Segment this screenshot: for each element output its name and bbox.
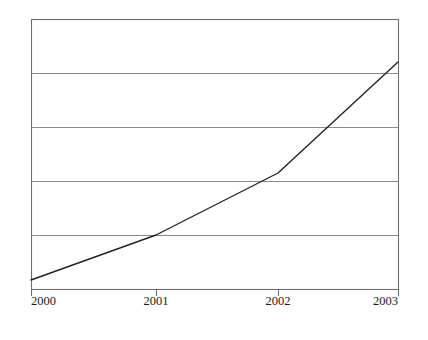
x-axis-label-2001: 2001 [144,294,169,308]
line-chart: 2000200120022003 [0,0,428,340]
x-axis-label-2002: 2002 [266,294,291,308]
x-axis-label-2000: 2000 [31,294,56,308]
x-axis-label-2003: 2003 [373,294,398,308]
chart-container: 2000200120022003 [0,0,428,340]
